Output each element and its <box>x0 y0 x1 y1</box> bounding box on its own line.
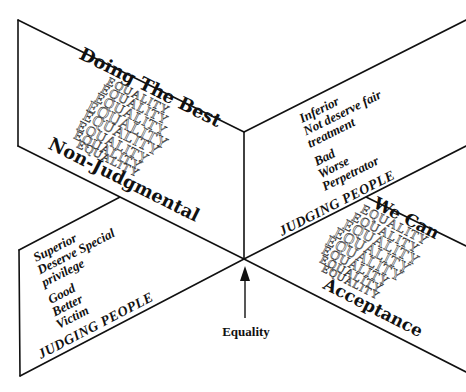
equality-arrow <box>240 266 250 318</box>
equality-label: Equality <box>222 324 270 339</box>
arrow-up-icon <box>240 266 250 281</box>
equality-diagram: Superior Deserve Special privilege Good … <box>0 0 466 392</box>
bottom-left-left-edge <box>19 250 20 376</box>
